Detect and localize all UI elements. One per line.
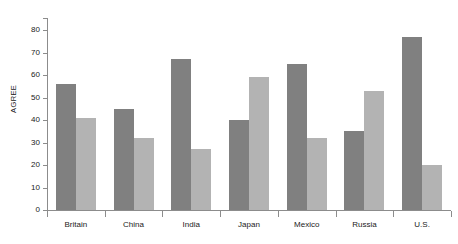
x-axis-separator [451,211,452,217]
bar-japan-series-2 [249,77,269,210]
y-axis-tick-label: 20 [31,160,40,169]
bar-u-s-series-2 [422,165,442,210]
x-axis-line [47,210,451,211]
bar-india-series-1 [171,59,191,210]
y-axis-tick-label: 10 [31,183,40,192]
y-axis-tick-label: 80 [31,25,40,34]
x-axis-label-britain: Britain [47,220,105,229]
bar-britain-series-1 [56,84,76,210]
y-axis-tick: 20 [43,165,48,166]
x-axis-separator [336,211,337,217]
x-axis-label-mexico: Mexico [278,220,336,229]
x-axis-label-china: China [105,220,163,229]
y-axis-tick-label: 40 [31,115,40,124]
y-axis-tick-label: 30 [31,138,40,147]
y-axis-tick: 70 [43,53,48,54]
x-axis-label-japan: Japan [220,220,278,229]
y-axis-tick: 10 [43,188,48,189]
y-axis-tick: 80 [43,30,48,31]
bar-chart: AGREE 01020304050607080 BritainChinaIndi… [0,0,458,244]
x-axis-separator [47,211,48,217]
x-axis-separator [162,211,163,217]
bar-india-series-2 [191,149,211,210]
bar-mexico-series-2 [307,138,327,210]
bar-japan-series-1 [229,120,249,210]
bar-russia-series-2 [364,91,384,210]
bar-china-series-1 [114,109,134,210]
x-axis-separator [105,211,106,217]
y-axis-line [47,18,48,210]
x-axis-separator [393,211,394,217]
y-axis-tick-label: 70 [31,48,40,57]
bar-mexico-series-1 [287,64,307,210]
y-axis-tick-label: 60 [31,70,40,79]
y-axis-tick-label: 0 [36,205,40,214]
x-axis-label-india: India [162,220,220,229]
y-axis-tick: 50 [43,98,48,99]
y-axis-title: AGREE [9,53,23,113]
x-axis-separator [278,211,279,217]
bar-china-series-2 [134,138,154,210]
bar-russia-series-1 [344,131,364,210]
y-axis-tick: 60 [43,75,48,76]
y-axis-tick: 30 [43,143,48,144]
bar-u-s-series-1 [402,37,422,210]
y-axis-tick: 40 [43,120,48,121]
x-axis-label-russia: Russia [336,220,394,229]
bar-britain-series-2 [76,118,96,210]
x-axis-label-u-s: U.S. [393,220,451,229]
x-axis-separator [220,211,221,217]
y-axis-tick-label: 50 [31,93,40,102]
